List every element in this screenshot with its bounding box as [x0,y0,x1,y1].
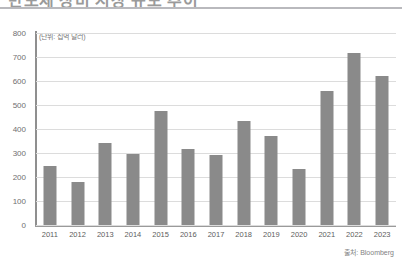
bar-slot [230,33,258,225]
y-axis-tick-label: 500 [0,101,26,110]
bar [43,166,56,225]
x-axis-tick-label: 2023 [368,230,396,239]
bar [99,143,112,225]
y-axis-tick-label: 600 [0,77,26,86]
bar-slot [258,33,286,225]
bar [237,121,250,225]
plot-area: (단위: 십억 달러) 0100200300400500600700800 [36,33,396,225]
x-axis-tick-label: 2011 [36,230,64,239]
x-axis-tick-label: 2017 [202,230,230,239]
bar-slot [36,33,64,225]
x-axis-tick-label: 2022 [341,230,369,239]
headline-crop: 반도체 장비 시장 규모 추이 [0,0,402,7]
headline-text: 반도체 장비 시장 규모 추이 [8,0,198,7]
x-axis-tick-label: 2013 [91,230,119,239]
bar [348,53,361,225]
bar [154,111,167,225]
y-axis-tick-label: 300 [0,149,26,158]
x-axis-tick-label: 2015 [147,230,175,239]
x-axis-tick-label: 2014 [119,230,147,239]
bar-slot [341,33,369,225]
y-axis-tick-label: 100 [0,197,26,206]
bar-slot [174,33,202,225]
bar [71,182,84,225]
bar [293,169,306,225]
bar-slot [313,33,341,225]
bar-slot [91,33,119,225]
bar [182,149,195,225]
bar [376,76,389,225]
x-axis-tick-label: 2012 [64,230,92,239]
bar [320,91,333,225]
bar [126,154,139,225]
y-axis-tick-label: 800 [0,29,26,38]
y-axis-tick-label: 0 [0,221,26,230]
x-axis-tick-label: 2019 [258,230,286,239]
x-axis-tick-label: 2018 [230,230,258,239]
bar-slot [368,33,396,225]
y-axis-tick-label: 400 [0,125,26,134]
source-note: 출처: Bloomberg [344,247,394,257]
x-axis-tick-label: 2020 [285,230,313,239]
bar-slot [285,33,313,225]
gridline [36,225,396,226]
bar-slot [147,33,175,225]
bar-slot [202,33,230,225]
bar-slot [119,33,147,225]
bar [209,155,222,225]
bar-slot [64,33,92,225]
x-axis-tick-label: 2016 [174,230,202,239]
bar [265,136,278,225]
y-axis-tick-label: 200 [0,173,26,182]
bar-chart: (단위: 십억 달러) 0100200300400500600700800 20… [0,9,402,270]
x-axis-tick-label: 2021 [313,230,341,239]
y-axis-tick-label: 700 [0,53,26,62]
